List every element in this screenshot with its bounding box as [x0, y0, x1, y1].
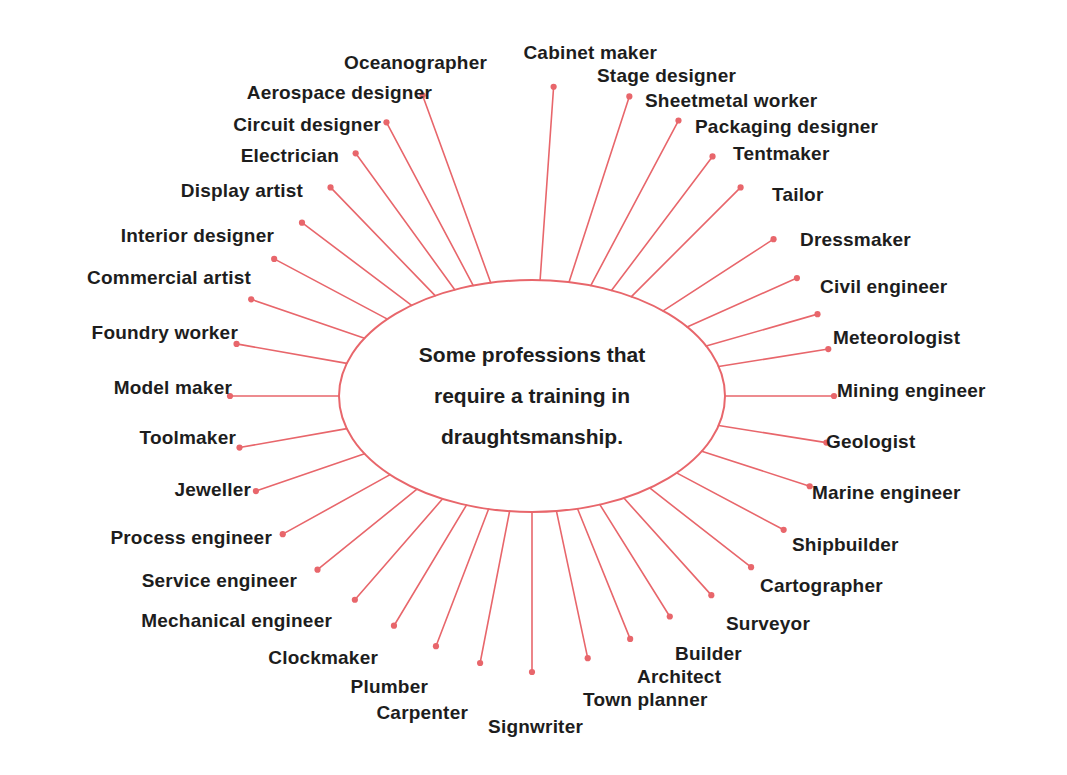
profession-label: Clockmaker: [268, 648, 378, 667]
profession-label: Process engineer: [110, 528, 272, 547]
spoke-endpoint-dot: [781, 527, 787, 533]
profession-label: Civil engineer: [820, 277, 947, 296]
center-caption-line-1: Some professions that: [419, 335, 645, 376]
profession-label: Interior designer: [121, 226, 274, 245]
profession-label: Model maker: [114, 378, 232, 397]
spoke-line: [719, 426, 827, 443]
spoke-endpoint-dot: [825, 346, 831, 352]
spoke-line: [480, 511, 510, 663]
spoke-endpoint-dot: [667, 613, 673, 619]
profession-label: Toolmaker: [140, 428, 236, 447]
profession-label: Meteorologist: [833, 328, 960, 347]
spoke-endpoint-dot: [770, 236, 776, 242]
spoke-line: [612, 156, 713, 290]
profession-label: Jeweller: [174, 480, 251, 499]
profession-label: Service engineer: [142, 571, 297, 590]
spoke-line: [540, 87, 554, 280]
spoke-line: [706, 314, 817, 346]
spoke-line: [624, 498, 711, 595]
profession-label: Carpenter: [376, 703, 468, 722]
spoke-endpoint-dot: [529, 669, 535, 675]
spoke-line: [240, 429, 347, 448]
spoke-endpoint-dot: [626, 93, 632, 99]
spoke-line: [251, 299, 364, 338]
spoke-endpoint-dot: [314, 567, 320, 573]
spoke-line: [283, 475, 390, 535]
spoke-endpoint-dot: [327, 184, 333, 190]
profession-label: Tailor: [772, 185, 824, 204]
spoke-endpoint-dot: [708, 592, 714, 598]
spoke-line: [663, 239, 773, 311]
profession-label: Oceanographer: [344, 53, 487, 72]
profession-label: Commercial artist: [87, 268, 251, 287]
spoke-line: [302, 223, 412, 306]
spoke-endpoint-dot: [352, 597, 358, 603]
spoke-line: [556, 511, 587, 658]
profession-label: Display artist: [181, 181, 303, 200]
spoke-line: [394, 505, 466, 626]
profession-label: Geologist: [826, 432, 915, 451]
spoke-line: [578, 509, 631, 639]
spoke-endpoint-dot: [236, 444, 242, 450]
spoke-endpoint-dot: [551, 84, 557, 90]
spoke-line: [256, 454, 365, 491]
spoke-endpoint-dot: [585, 655, 591, 661]
profession-label: Surveyor: [726, 614, 810, 633]
center-caption: Some professions thatrequire a training …: [419, 335, 645, 458]
profession-label: Builder: [675, 644, 742, 663]
spoke-endpoint-dot: [299, 220, 305, 226]
spoke-endpoint-dot: [738, 184, 744, 190]
profession-label: Sheetmetal worker: [645, 91, 817, 110]
spoke-endpoint-dot: [433, 643, 439, 649]
spoke-endpoint-dot: [814, 311, 820, 317]
spoke-line: [569, 96, 629, 282]
spoke-line: [237, 344, 347, 363]
profession-label: Town planner: [583, 690, 708, 709]
spoke-line: [650, 488, 751, 567]
profession-label: Signwriter: [488, 717, 583, 736]
spoke-endpoint-dot: [253, 488, 259, 494]
profession-label: Dressmaker: [800, 230, 911, 249]
profession-label: Tentmaker: [733, 144, 830, 163]
spoke-line: [386, 122, 473, 285]
profession-label: Architect: [637, 667, 721, 686]
profession-label: Aerospace designer: [247, 83, 432, 102]
spoke-endpoint-dot: [271, 256, 277, 262]
profession-label: Foundry worker: [92, 323, 238, 342]
profession-radial-diagram: Some professions thatrequire a training …: [0, 0, 1067, 775]
profession-label: Stage designer: [597, 66, 736, 85]
profession-label: Circuit designer: [233, 115, 381, 134]
profession-label: Cartographer: [760, 576, 883, 595]
spoke-endpoint-dot: [794, 275, 800, 281]
profession-label: Packaging designer: [695, 117, 878, 136]
profession-label: Mining engineer: [837, 381, 986, 400]
center-caption-line-3: draughtsmanship.: [419, 416, 645, 457]
spoke-endpoint-dot: [709, 153, 715, 159]
spoke-line: [318, 489, 417, 570]
spoke-endpoint-dot: [627, 636, 633, 642]
spoke-endpoint-dot: [675, 117, 681, 123]
profession-label: Cabinet maker: [523, 43, 657, 62]
spoke-endpoint-dot: [248, 296, 254, 302]
spoke-endpoint-dot: [748, 564, 754, 570]
spoke-line: [719, 349, 829, 366]
profession-label: Marine engineer: [812, 483, 961, 502]
profession-label: Plumber: [351, 677, 428, 696]
profession-label: Shipbuilder: [792, 535, 899, 554]
spoke-line: [436, 509, 489, 646]
spoke-endpoint-dot: [477, 660, 483, 666]
center-caption-line-2: require a training in: [419, 376, 645, 417]
spoke-line: [600, 505, 670, 617]
spoke-endpoint-dot: [353, 150, 359, 156]
profession-label: Mechanical engineer: [141, 611, 332, 630]
spoke-line: [355, 499, 443, 600]
spoke-line: [274, 259, 387, 319]
spoke-endpoint-dot: [280, 531, 286, 537]
spoke-endpoint-dot: [391, 623, 397, 629]
profession-label: Electrician: [241, 146, 339, 165]
spoke-endpoint-dot: [383, 119, 389, 125]
spoke-line: [702, 451, 810, 486]
